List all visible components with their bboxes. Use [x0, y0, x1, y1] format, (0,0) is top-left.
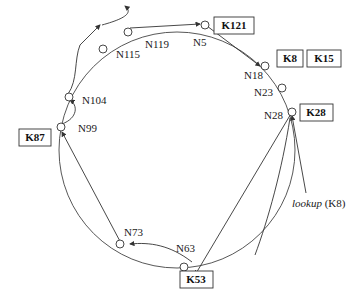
edge-n28-n63 — [195, 112, 292, 275]
label-n63: N63 — [176, 242, 195, 254]
node-n119 — [124, 28, 132, 36]
node-n115 — [99, 45, 107, 53]
edge-n73-n99 — [62, 132, 122, 245]
edge-n104-n115 — [68, 25, 100, 94]
edge-n119-n5 — [130, 24, 200, 28]
lookup-arrow — [292, 116, 306, 193]
node-n99 — [57, 123, 65, 131]
label-n119: N119 — [145, 38, 170, 50]
key-k87: K87 — [25, 131, 45, 143]
node-n104 — [65, 93, 73, 101]
node-n73 — [116, 240, 124, 248]
identifier-ring — [59, 32, 295, 268]
label-n18: N18 — [244, 69, 263, 81]
node-n23 — [278, 84, 286, 92]
node-n5 — [201, 21, 209, 29]
key-k121: K121 — [221, 19, 246, 31]
lookup-arg: (K8) — [322, 197, 346, 210]
label-n23: N23 — [254, 86, 273, 98]
key-k8: K8 — [283, 52, 298, 64]
key-k53: K53 — [186, 273, 206, 285]
label-n115: N115 — [116, 48, 141, 60]
key-k15: K15 — [314, 52, 334, 64]
lookup-word: lookup — [292, 197, 322, 209]
key-k28: K28 — [306, 106, 326, 118]
node-n28 — [288, 108, 296, 116]
label-n73: N73 — [124, 226, 143, 238]
node-n63 — [180, 263, 188, 271]
chord-ring-diagram: N5 N18 N23 N28 N63 N73 N99 N104 N115 N11… — [0, 0, 359, 300]
label-n99: N99 — [78, 122, 97, 134]
label-n5: N5 — [193, 36, 207, 48]
edge-n115-n119 — [102, 6, 128, 25]
label-n104: N104 — [82, 94, 107, 106]
label-n28: N28 — [264, 109, 283, 121]
lookup-arrow-curve — [255, 118, 290, 255]
lookup-label: lookup (K8) — [292, 197, 346, 210]
